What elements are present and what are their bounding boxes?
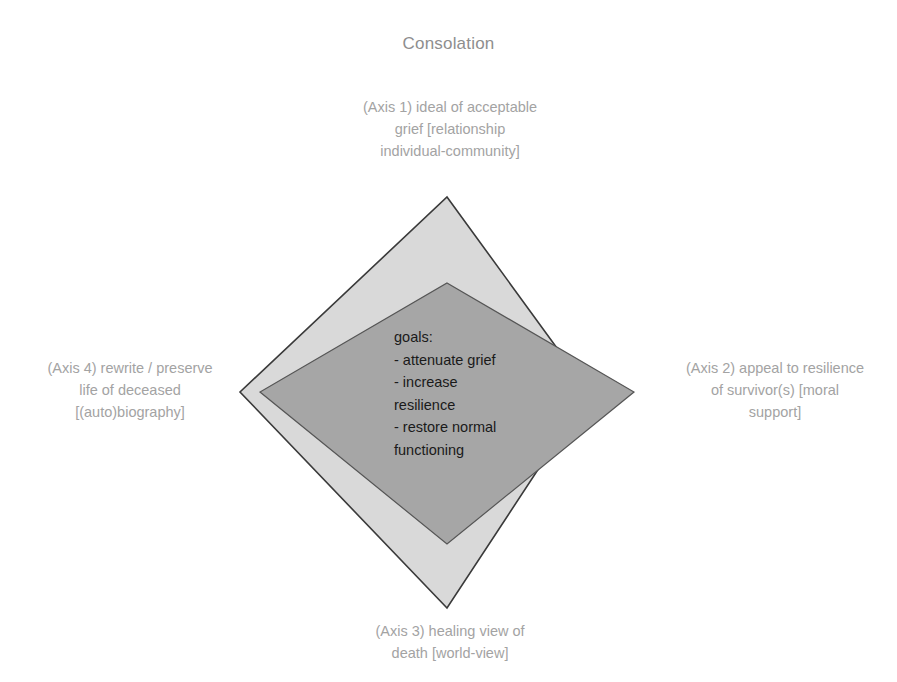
- goals-annotation: goals: - attenuate grief - increase resi…: [394, 326, 524, 461]
